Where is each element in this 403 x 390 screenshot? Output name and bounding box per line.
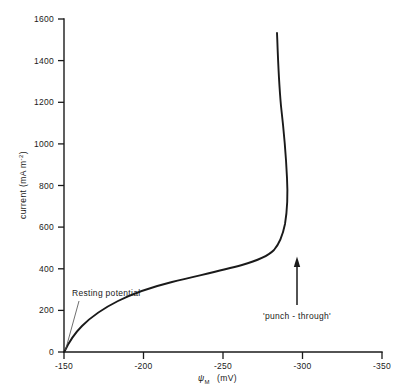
y-tick-label: 600 xyxy=(39,222,54,232)
y-axis-title: current (mA m-2) xyxy=(18,151,29,219)
y-axis-title-close: ) xyxy=(18,151,28,154)
y-tick-label: 1400 xyxy=(34,56,54,66)
x-axis-title-units: (mV) xyxy=(217,373,237,383)
x-tick-label: -300 xyxy=(293,361,311,371)
x-axis-title-subscript: M xyxy=(205,379,210,385)
x-axis-title: ψM (mV) xyxy=(198,373,237,385)
y-tick-label: 1600 xyxy=(34,14,54,24)
x-tick-label: -200 xyxy=(134,361,152,371)
svg-text:current (mA m-2): current (mA m-2) xyxy=(18,151,29,219)
y-tick-label: 800 xyxy=(39,181,54,191)
x-tick-label: -150 xyxy=(55,361,73,371)
y-tick-label: 1000 xyxy=(34,139,54,149)
x-axis-title-symbol: ψ xyxy=(198,373,205,383)
chart-background xyxy=(0,0,403,390)
resting-potential-label: Resting potential xyxy=(72,288,140,298)
punch-through-label: 'punch - through' xyxy=(263,311,331,321)
y-tick-label: 0 xyxy=(49,347,54,357)
y-axis-title-text: current (mA m xyxy=(18,160,28,219)
current-voltage-chart: 1600 1400 1200 1000 800 600 400 200 0 cu… xyxy=(0,0,403,390)
x-tick-label: -250 xyxy=(214,361,232,371)
x-tick-label: -350 xyxy=(373,361,391,371)
y-tick-label: 400 xyxy=(39,264,54,274)
y-tick-label: 1200 xyxy=(34,97,54,107)
y-tick-label: 200 xyxy=(39,305,54,315)
